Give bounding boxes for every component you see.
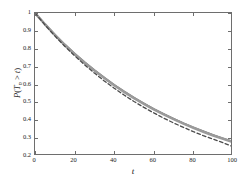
y-tick-label: 0.9 — [9, 27, 31, 34]
x-tick-mark — [114, 151, 115, 154]
x-tick-mark — [35, 151, 36, 154]
y-tick-mark — [228, 102, 231, 103]
x-tick-mark — [114, 13, 115, 16]
y-tick-label: 0.6 — [9, 80, 31, 87]
x-tick-mark — [154, 151, 155, 154]
y-tick-label: 1 — [9, 9, 31, 16]
figure-container: P(Tn > t) t 0204060801000.20.30.40.50.60… — [0, 0, 248, 184]
curve-dashed-curve-lower — [35, 13, 232, 147]
y-tick-label: 0.7 — [9, 62, 31, 69]
x-tick-label: 100 — [227, 157, 237, 164]
y-axis-title-t: t — [12, 71, 22, 73]
y-tick-label: 0.3 — [9, 134, 31, 141]
y-tick-label: 0.2 — [9, 152, 31, 159]
y-tick-label: 0.5 — [9, 98, 31, 105]
x-tick-mark — [75, 151, 76, 154]
x-tick-mark — [193, 151, 194, 154]
plot-area — [34, 12, 232, 155]
y-tick-mark — [35, 102, 38, 103]
x-tick-mark — [154, 13, 155, 16]
y-tick-mark — [228, 138, 231, 139]
y-tick-mark — [35, 31, 38, 32]
x-tick-label: 40 — [110, 157, 117, 164]
y-tick-label: 0.4 — [9, 116, 31, 123]
y-tick-mark — [228, 49, 231, 50]
y-tick-mark — [35, 67, 38, 68]
x-tick-mark — [75, 13, 76, 16]
x-tick-label: 60 — [150, 157, 157, 164]
x-tick-label: 20 — [70, 157, 77, 164]
y-axis-title-open: ( — [12, 90, 22, 93]
y-tick-label: 0.8 — [9, 45, 31, 52]
y-tick-mark — [35, 120, 38, 121]
x-tick-label: 80 — [189, 157, 196, 164]
x-axis-title: t — [132, 166, 135, 176]
y-tick-mark — [228, 120, 231, 121]
y-tick-mark — [35, 13, 38, 14]
x-tick-mark — [193, 13, 194, 16]
y-tick-mark — [35, 138, 38, 139]
x-tick-label: 0 — [32, 157, 35, 164]
curve-solid-curve-upper — [35, 13, 232, 142]
y-tick-mark — [228, 85, 231, 86]
y-tick-mark — [228, 67, 231, 68]
y-tick-mark — [228, 13, 231, 14]
y-tick-mark — [35, 85, 38, 86]
curve-solid-curve-overlay — [35, 13, 232, 142]
curve-layer — [35, 13, 232, 155]
y-tick-mark — [35, 49, 38, 50]
y-tick-mark — [228, 31, 231, 32]
